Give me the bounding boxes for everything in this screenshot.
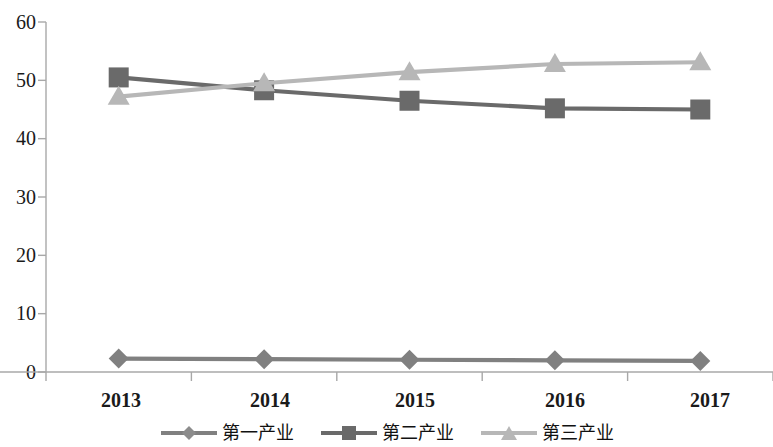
data-point-marker <box>254 349 274 369</box>
data-point-marker <box>400 350 420 370</box>
data-point-marker <box>545 98 565 118</box>
data-point-marker <box>109 349 129 369</box>
data-series-layer <box>108 51 712 371</box>
diamond-marker-icon <box>160 424 218 442</box>
data-point-marker <box>109 67 129 87</box>
legend-label-series-3: 第三产业 <box>542 424 614 442</box>
plot-area <box>0 0 773 447</box>
chart-legend: 第一产业 第二产业 第三产业 <box>0 419 773 447</box>
data-point-marker <box>690 351 710 371</box>
line-chart: 60 50 40 30 20 10 0 2013 2014 2015 2016 … <box>0 0 773 447</box>
legend-item-series-1[interactable]: 第一产业 <box>160 424 294 442</box>
legend-label-series-1: 第一产业 <box>222 424 294 442</box>
data-point-marker <box>545 350 565 370</box>
square-marker-icon <box>320 424 378 442</box>
legend-item-series-3[interactable]: 第三产业 <box>480 424 614 442</box>
data-point-marker <box>690 100 710 120</box>
legend-label-series-2: 第二产业 <box>382 424 454 442</box>
data-point-marker <box>400 91 420 111</box>
legend-item-series-2[interactable]: 第二产业 <box>320 424 454 442</box>
series-diamond <box>109 349 711 371</box>
triangle-marker-icon <box>480 424 538 442</box>
